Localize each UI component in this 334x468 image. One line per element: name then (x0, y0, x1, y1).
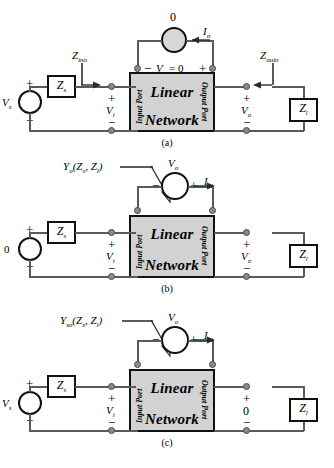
panel-b-output-top-node-left (134, 207, 141, 214)
panel-b-input-port-label: Input Port (135, 235, 144, 269)
panel-b-network-box: Linear Network Input Port Output Port (129, 215, 215, 278)
panel-a-input-port-label: Input Port (135, 90, 144, 124)
panel-b-output-node-top (243, 229, 250, 236)
panel-b-top-source (161, 172, 189, 200)
panel-a-vi-minus: − (108, 116, 115, 129)
panel-a-zino-arrow (81, 79, 103, 91)
panel-a-output-node-top (243, 83, 250, 90)
panel-c-input-port-label: Input Port (135, 389, 144, 423)
panel-c-series-impedance: Zs (47, 375, 76, 398)
panel-b-caption: (b) (0, 283, 334, 294)
panel-a-top-source (161, 27, 187, 53)
panel-b: Yo(Zs, Zl) Vo − + Io′ Linear Network Inp… (0, 152, 334, 304)
panel-c: Yso(Zs, Zl) Vo − + Io′ Linear Network In… (0, 306, 334, 458)
panel-c-top-source (161, 326, 189, 354)
panel-a-source-left-label: Vs (2, 97, 11, 111)
panel-c-vout-minus: − (243, 416, 250, 429)
panel-a: 0 Io − Vo = 0 + Linear Network Input Por… (0, 0, 334, 152)
panel-a-load-impedance: Zl (289, 98, 318, 122)
panel-c-output-node-top (243, 383, 250, 390)
panel-a-vout-minus: − (243, 116, 250, 129)
panel-a-input-impedance-label: Zino (72, 50, 87, 64)
panel-b-vi-minus: − (108, 262, 115, 275)
panel-b-input-node-top (108, 229, 115, 236)
panel-c-output-port-label: Output Port (200, 380, 209, 419)
panel-b-top-source-label: Vo (168, 158, 178, 172)
panel-c-output-top-node-right (209, 361, 216, 368)
panel-c-admittance-label: Yso(Zs, Zl) (60, 315, 102, 329)
panel-c-input-node-top (108, 383, 115, 390)
panel-c-current-arrow (192, 334, 216, 346)
panel-b-output-top-node-right (209, 207, 216, 214)
panel-c-load-impedance: Zl (289, 398, 318, 422)
panel-a-network-box: Linear Network Input Port Output Port (129, 72, 215, 132)
panel-c-caption: (c) (0, 437, 334, 448)
panel-c-vi-minus: − (108, 416, 115, 429)
panel-c-source-left (18, 391, 42, 415)
panel-b-source-left (18, 237, 42, 261)
panel-b-vout-minus: − (243, 262, 250, 275)
panel-c-top-source-label: Vo (168, 312, 178, 326)
panel-b-source-left-label: 0 (4, 244, 10, 255)
panel-a-top-source-value: 0 (170, 11, 176, 23)
panel-a-input-node-top (108, 83, 115, 90)
panel-c-output-top-node-left (134, 361, 141, 368)
panel-a-zouto-arrow (252, 79, 274, 91)
panel-a-caption: (a) (0, 137, 334, 148)
panel-b-load-impedance: Zl (289, 244, 318, 268)
panel-b-current-arrow (192, 180, 216, 192)
panel-b-output-port-label: Output Port (200, 226, 209, 265)
panel-c-network-box: Linear Network Input Port Output Port (129, 369, 215, 432)
panel-a-series-impedance: Zs (47, 75, 76, 98)
panel-a-current-arrow (190, 34, 214, 46)
panel-a-output-top-node-right (209, 65, 216, 72)
panel-b-admittance-label: Yo(Zs, Zl) (63, 161, 102, 175)
panel-a-output-port-label: Output Port (200, 82, 209, 121)
panel-a-output-top-node-left (134, 65, 141, 72)
panel-c-source-left-label: Vs (2, 398, 11, 412)
panel-b-series-impedance: Zs (47, 221, 76, 244)
panel-a-output-impedance-label: Zouto (260, 50, 279, 64)
panel-a-source-left (18, 90, 42, 114)
